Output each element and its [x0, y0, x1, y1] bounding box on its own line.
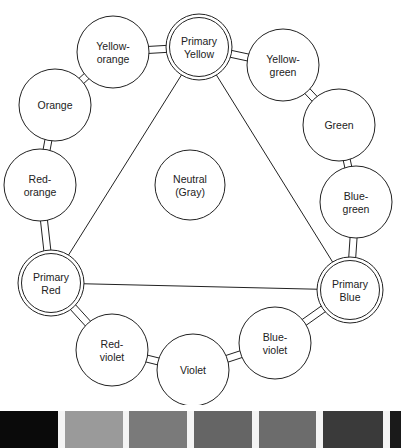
- node-label-line2: green: [270, 66, 297, 78]
- node-label-line2: Blue: [339, 291, 360, 303]
- neutral-label: Neutral: [173, 173, 207, 185]
- color-circle: [320, 166, 392, 238]
- gray-swatch-4: [194, 411, 252, 448]
- gray-label: (Gray): [175, 186, 205, 198]
- node-violet: Violet: [157, 334, 229, 405]
- node-label-line1: Primary: [33, 271, 70, 283]
- gray-swatch-7: [390, 411, 401, 448]
- connector-primary-red-red-orange: [40, 218, 44, 253]
- primary-circle-outer: [166, 14, 232, 80]
- gray-swatch-1: [0, 411, 58, 448]
- neutral-circle: [155, 150, 225, 220]
- connector-red-violet-primary-red: [69, 308, 88, 328]
- node-yellow-orange: Yellow-orange: [77, 16, 149, 88]
- connector-yellow-orange-primary-yellow: [146, 45, 169, 46]
- node-label-line1: Primary: [332, 278, 369, 290]
- primary-circle-outer: [317, 257, 383, 323]
- connector-yellow-orange-primary-yellow: [146, 52, 169, 53]
- node-red-orange: Red-orange: [4, 149, 76, 221]
- gray-swatch-2: [65, 411, 123, 448]
- node-label-line1: Primary: [181, 35, 218, 47]
- node-label-line2: Red: [41, 284, 60, 296]
- color-wheel-diagram: PrimaryYellowYellow-greenGreenBlue-green…: [0, 0, 401, 405]
- node-label-line1: Red-: [29, 173, 52, 185]
- node-yellow-green: Yellow-green: [247, 29, 319, 101]
- connector-primary-red-red-orange: [47, 217, 51, 252]
- node-primary-blue: PrimaryBlue: [317, 257, 383, 323]
- gray-swatch-strip: [0, 411, 401, 448]
- node-label-line2: green: [343, 203, 370, 215]
- node-label-line2: orange: [24, 186, 57, 198]
- node-label-line1: Yellow-: [96, 40, 130, 52]
- gray-swatch-5: [259, 411, 316, 448]
- gray-swatch-3: [129, 411, 187, 448]
- node-label-line1: Green: [324, 119, 353, 131]
- color-circle: [4, 149, 76, 221]
- node-primary-red: PrimaryRed: [18, 250, 84, 316]
- node-label-line1: Yellow-: [266, 53, 300, 65]
- primary-circle-outer: [18, 250, 84, 316]
- node-label-line1: Orange: [37, 99, 72, 111]
- color-circle: [76, 314, 148, 386]
- node-label-line2: Yellow: [184, 48, 214, 60]
- connector-red-violet-primary-red: [74, 303, 93, 323]
- connector-primary-blue-blue-violet: [300, 304, 324, 321]
- node-label-line1: Blue-: [344, 190, 369, 202]
- node-blue-violet: Blue-violet: [239, 307, 311, 379]
- node-label-line2: orange: [97, 53, 130, 65]
- node-red-violet: Red-violet: [76, 314, 148, 386]
- gray-swatch-6: [323, 411, 383, 448]
- connector-primary-yellow-yellow-green: [229, 50, 251, 55]
- triangle-edge-primary-blue-primary-red: [84, 284, 317, 289]
- connector-blue-green-primary-blue: [349, 235, 351, 260]
- node-green: Green: [303, 89, 375, 161]
- node-blue-green: Blue-green: [320, 166, 392, 238]
- neutral-gray-node: Neutral (Gray): [155, 150, 225, 220]
- node-label-line2: violet: [100, 351, 125, 363]
- color-circle: [247, 29, 319, 101]
- color-circle: [239, 307, 311, 379]
- node-label-line1: Blue-: [263, 331, 288, 343]
- node-label-line2: violet: [263, 344, 288, 356]
- node-label-line1: Violet: [180, 364, 206, 376]
- node-primary-yellow: PrimaryYellow: [166, 14, 232, 80]
- color-circle: [77, 16, 149, 88]
- node-orange: Orange: [19, 69, 91, 141]
- connector-primary-blue-blue-violet: [304, 310, 328, 327]
- connector-primary-yellow-yellow-green: [228, 57, 250, 62]
- connector-blue-green-primary-blue: [356, 235, 358, 260]
- node-label-line1: Red-: [101, 338, 124, 350]
